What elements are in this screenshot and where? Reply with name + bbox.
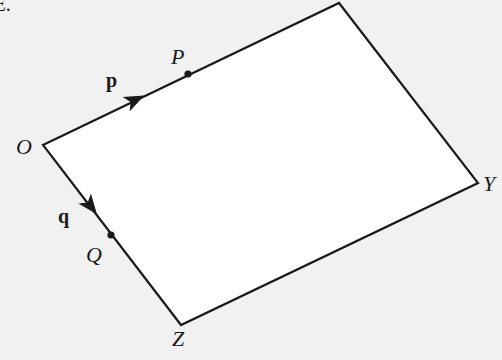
label-Y: Y	[483, 173, 495, 195]
label-Z: Z	[172, 328, 184, 350]
label-vector-p: p	[106, 70, 117, 90]
label-P: P	[171, 46, 184, 68]
label-Q: Q	[86, 244, 102, 266]
label-O: O	[16, 136, 32, 158]
point-p-dot	[184, 70, 191, 77]
point-q-dot	[107, 231, 114, 238]
parallelogram-diagram	[0, 0, 502, 360]
truncated-heading: E.	[0, 0, 11, 14]
label-vector-q: q	[58, 206, 69, 226]
parallelogram-shape	[43, 3, 478, 325]
